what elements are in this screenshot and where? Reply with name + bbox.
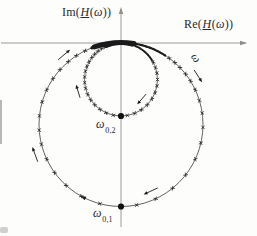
frequency-tick [141,108,142,113]
scan-edge-artifact [0,227,8,233]
re-function: Re [184,17,198,31]
frequency-tick [88,99,93,100]
direction-arrow [58,51,68,59]
resonance-point-1 [118,203,124,209]
direction-arrowhead [198,78,202,82]
direction-arrow [33,150,37,162]
frequency-tick [185,173,186,178]
frequency-tick [183,74,188,75]
transfer-function-symbol: H [80,5,90,19]
resonance-frequency-label-2: ω0,2 [96,118,115,135]
omega-direction-text: ω [188,50,204,65]
frequency-tick [98,109,103,110]
frequency-tick [188,81,192,82]
imag-axis-label: Im(H(ω)) [62,6,111,19]
direction-arrow [146,188,158,193]
direction-arrow [194,70,201,80]
locus-plot: ω [0,0,257,236]
scan-edge-artifact [0,100,2,144]
frequency-tick [52,172,57,173]
dense-frequency-band [134,44,166,56]
resonance-point-2 [118,113,124,119]
frequency-tick [167,58,172,59]
locus-figure: ω Im(H(ω)) Re(H(ω)) ω0,2 ω0,1 [0,0,257,236]
transfer-function-symbol: H [202,17,212,31]
im-function: Im [62,5,76,19]
resonance-frequency-label-1: ω0,1 [93,207,112,224]
direction-arrow [139,94,146,102]
frequency-tick [53,76,54,81]
frequency-tick [92,55,93,60]
real-axis-arrowhead [240,41,247,45]
frequency-tick [151,97,152,101]
real-axis-label: Re(H(ω)) [184,18,233,31]
direction-arrowhead [76,85,79,89]
direction-arrowhead [32,147,35,151]
imag-axis-arrowhead [119,7,123,14]
omega-direction-label: ω [188,50,204,65]
frequency-tick [76,53,77,57]
direction-arrow [77,87,80,98]
